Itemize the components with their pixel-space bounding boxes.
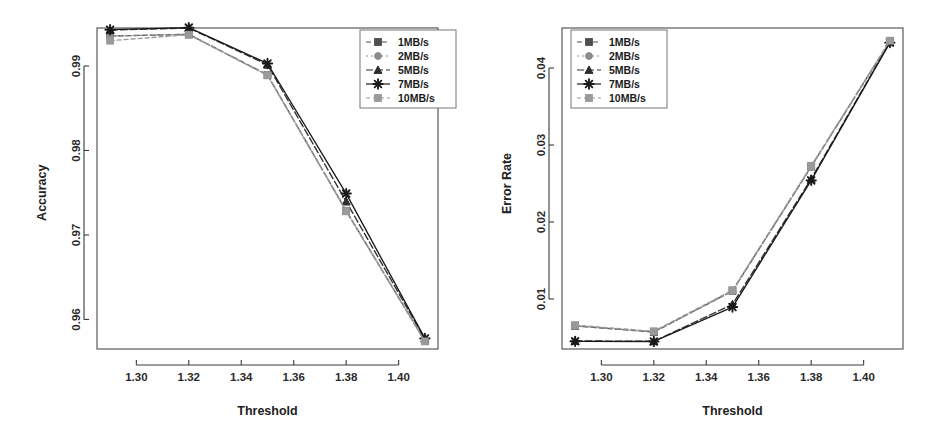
x-tick-label: 1.32 [643, 371, 665, 383]
x-tick-label: 1.34 [230, 371, 253, 383]
y-tick-label: 0.97 [70, 224, 82, 246]
data-point [572, 322, 579, 329]
x-tick-label: 1.30 [590, 371, 612, 383]
x-tick-label: 1.36 [748, 371, 770, 383]
data-point [649, 337, 658, 346]
data-point [263, 59, 272, 68]
x-tick-label: 1.38 [335, 371, 358, 383]
y-axis-title: Error Rate [500, 153, 514, 214]
data-point [107, 37, 114, 44]
y-axis-title: Accuracy [35, 165, 49, 221]
y-axis: 0.010.020.030.04 [535, 56, 554, 310]
x-axis-title: Threshold [237, 404, 297, 418]
legend-label: 10MB/s [609, 92, 646, 104]
data-point [343, 208, 350, 215]
legend-marker [373, 79, 382, 88]
accuracy-plot-svg: 1.301.321.341.361.381.40Threshold0.960.9… [0, 0, 465, 441]
y-tick-label: 0.99 [70, 55, 82, 77]
data-point [341, 189, 350, 198]
data-point [264, 72, 271, 79]
legend: 1MB/s2MB/s5MB/s7MB/s10MB/s [360, 30, 456, 108]
legend-label: 10MB/s [398, 92, 435, 104]
legend-marker [586, 95, 593, 102]
x-tick-label: 1.38 [800, 371, 823, 383]
legend-marker [375, 53, 382, 60]
accuracy-panel: 1.301.321.341.361.381.40Threshold0.960.9… [0, 0, 465, 441]
x-tick-label: 1.34 [695, 371, 718, 383]
legend-label: 7MB/s [609, 78, 640, 90]
error-rate-plot-svg: 1.301.321.341.361.381.40Threshold0.010.0… [465, 0, 930, 441]
legend-label: 2MB/s [609, 50, 640, 62]
data-point [886, 37, 893, 44]
x-axis: 1.301.321.341.361.381.40 [590, 360, 875, 383]
y-axis: 0.960.970.980.99 [70, 55, 89, 331]
legend-label: 5MB/s [609, 64, 640, 76]
x-tick-label: 1.36 [283, 371, 305, 383]
data-point [105, 25, 114, 34]
data-point [185, 31, 192, 38]
legend-marker [375, 39, 382, 46]
x-tick-label: 1.40 [387, 371, 409, 383]
data-point [421, 338, 428, 345]
y-tick-label: 0.04 [535, 56, 547, 79]
figure-container: 1.301.321.341.361.381.40Threshold0.960.9… [0, 0, 930, 441]
x-tick-label: 1.32 [178, 371, 200, 383]
legend-marker [375, 95, 382, 102]
legend: 1MB/s2MB/s5MB/s7MB/s10MB/s [571, 30, 667, 108]
data-point [806, 176, 815, 185]
data-point [650, 328, 657, 335]
legend-label: 7MB/s [398, 78, 429, 90]
legend-marker [586, 53, 593, 60]
data-point [808, 162, 815, 169]
error-rate-panel: 1.301.321.341.361.381.40Threshold0.010.0… [465, 0, 930, 441]
x-tick-label: 1.30 [125, 371, 147, 383]
data-point [728, 302, 737, 311]
data-point [570, 337, 579, 346]
y-tick-label: 0.02 [535, 211, 547, 233]
legend-marker [584, 79, 593, 88]
legend-label: 1MB/s [609, 36, 640, 48]
x-tick-label: 1.40 [852, 371, 874, 383]
data-point [729, 287, 736, 294]
y-tick-label: 0.01 [535, 287, 547, 310]
legend-marker [586, 39, 593, 46]
x-axis: 1.301.321.341.361.381.40 [125, 360, 410, 383]
y-tick-label: 0.03 [535, 134, 547, 156]
legend-label: 1MB/s [398, 36, 429, 48]
legend-label: 5MB/s [398, 64, 429, 76]
x-axis-title: Threshold [702, 404, 762, 418]
legend-label: 2MB/s [398, 50, 429, 62]
y-tick-label: 0.96 [70, 308, 82, 330]
y-tick-label: 0.98 [70, 139, 82, 162]
